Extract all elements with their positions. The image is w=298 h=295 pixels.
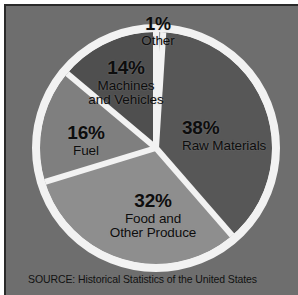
slice-name-other: Other <box>112 34 204 49</box>
slice-percent-raw-materials: 38% <box>182 118 298 139</box>
slice-label-food-and-other-produce: 32% Food and Other Produce <box>78 191 228 241</box>
slice-name-food-line2: Other Produce <box>78 226 228 241</box>
slice-name-food-line1: Food and <box>78 212 228 227</box>
slice-label-other: 1% Other <box>112 15 204 49</box>
slice-percent-fuel: 16% <box>38 123 134 144</box>
pie-chart-figure: 1% Other 14% Machines and Vehicles 16% F… <box>0 0 298 295</box>
slice-name-machines-line2: and Vehicles <box>64 93 188 108</box>
chart-plate: 1% Other 14% Machines and Vehicles 16% F… <box>4 4 298 295</box>
slice-label-raw-materials: 38% Raw Materials <box>182 118 298 153</box>
slice-percent-other: 1% <box>112 15 204 34</box>
slice-percent-food-and-other-produce: 32% <box>78 191 228 212</box>
slice-name-fuel: Fuel <box>38 144 134 159</box>
slice-name-machines-line1: Machines <box>64 79 188 94</box>
source-note: SOURCE: Historical Statistics of the Uni… <box>28 273 257 285</box>
slice-percent-machines-and-vehicles: 14% <box>64 58 188 79</box>
slice-name-raw-materials: Raw Materials <box>182 139 298 154</box>
slice-label-fuel: 16% Fuel <box>38 123 134 158</box>
slice-label-machines-and-vehicles: 14% Machines and Vehicles <box>64 58 188 108</box>
